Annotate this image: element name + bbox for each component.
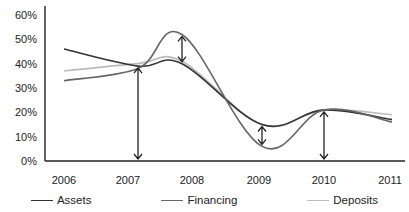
- y-axis-labels: 0%10%20%30%40%50%60%: [15, 9, 37, 167]
- double-arrow-2008: [178, 36, 186, 61]
- x-tick-label: 2008: [180, 174, 204, 186]
- y-tick-label: 60%: [15, 9, 37, 21]
- series-line-assets: [64, 49, 392, 126]
- legend-label: Financing: [187, 194, 237, 206]
- annotation-arrows: [134, 36, 328, 159]
- x-tick-label: 2006: [52, 174, 76, 186]
- legend-swatch: [307, 200, 329, 201]
- double-arrow-2010: [320, 112, 328, 159]
- chart-plot: 0%10%20%30%40%50%60% 2006200720082009201…: [0, 0, 409, 212]
- series-line-deposits: [64, 57, 392, 127]
- y-tick-label: 40%: [15, 58, 37, 70]
- y-tick-label: 20%: [15, 106, 37, 118]
- line-chart: 0%10%20%30%40%50%60% 2006200720082009201…: [0, 0, 409, 212]
- series-lines: [64, 32, 392, 149]
- y-tick-label: 50%: [15, 33, 37, 45]
- double-arrow-2007: [134, 68, 142, 159]
- x-tick-label: 2009: [247, 174, 271, 186]
- series-line-financing: [64, 32, 392, 149]
- legend-label: Deposits: [333, 194, 378, 206]
- legend-swatch: [31, 200, 53, 201]
- y-tick-label: 0%: [21, 155, 37, 167]
- legend-item-assets: Assets: [31, 194, 92, 206]
- legend-label: Assets: [57, 194, 92, 206]
- legend: AssetsFinancingDeposits: [0, 190, 409, 210]
- y-tick-label: 10%: [15, 131, 37, 143]
- x-tick-label: 2007: [116, 174, 140, 186]
- legend-swatch: [161, 200, 183, 201]
- x-tick-label: 2010: [312, 174, 336, 186]
- double-arrow-2009: [258, 127, 266, 145]
- legend-item-financing: Financing: [101, 194, 237, 206]
- x-tick-label: 2011: [378, 174, 402, 186]
- x-axis-labels: 200620072008200920102011: [52, 174, 402, 186]
- y-tick-label: 30%: [15, 82, 37, 94]
- legend-item-deposits: Deposits: [247, 194, 378, 206]
